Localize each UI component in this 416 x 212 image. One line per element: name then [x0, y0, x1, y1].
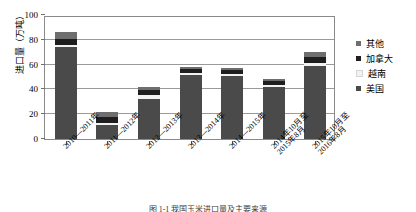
bar-segment-vn — [221, 74, 243, 76]
bar-segment-ot — [55, 32, 77, 38]
legend-swatch-icon — [356, 70, 363, 77]
y-axis-tick-mark — [41, 88, 45, 89]
y-axis-tick: 40 — [2, 85, 38, 94]
legend-swatch-icon — [356, 86, 361, 91]
gridline — [45, 64, 334, 65]
y-axis-tick-mark — [41, 64, 45, 65]
legend-swatch-icon — [356, 41, 361, 46]
bar-stack[interactable] — [221, 68, 243, 139]
bar-segment-vn — [96, 123, 118, 125]
bar-segment-vn — [180, 73, 202, 75]
bar-segment-vn — [55, 45, 77, 47]
legend-item[interactable]: 越南 — [356, 66, 414, 81]
y-axis-tick: 100 — [2, 11, 38, 20]
bar-segment-us — [180, 75, 202, 139]
bar-segment-ot — [180, 67, 202, 69]
bar-segment-us — [221, 76, 243, 139]
figure-caption: 图 1-1 我国玉米进口量及主要来源 — [0, 203, 416, 212]
legend-label: 加拿大 — [366, 52, 393, 65]
bar-segment-vn — [138, 95, 160, 99]
bar-stack[interactable] — [263, 79, 285, 139]
bar-segment-vn — [263, 85, 285, 87]
bar-segment-ot — [138, 87, 160, 90]
y-axis-tick: 0 — [2, 135, 38, 144]
legend-swatch-icon — [356, 56, 361, 61]
bar-segment-ot — [221, 68, 243, 70]
legend-item[interactable]: 美国 — [356, 81, 414, 96]
bar-segment-ca — [180, 69, 202, 73]
bar-segment-ca — [55, 39, 77, 46]
chart-figure: 进口量（万吨） 020406080100 2010—2011年2011—2012… — [0, 0, 416, 212]
bar-segment-ot — [263, 79, 285, 81]
y-axis-tick: 80 — [2, 36, 38, 45]
bar-segment-us — [55, 47, 77, 139]
y-axis-tick: 20 — [2, 110, 38, 119]
bar-stack[interactable] — [180, 67, 202, 139]
y-axis-tick: 60 — [2, 61, 38, 70]
bar-segment-ca — [221, 70, 243, 74]
bar-segment-ca — [263, 81, 285, 85]
y-axis-tick-mark — [41, 138, 45, 139]
chart-legend: 其他加拿大越南美国 — [356, 36, 414, 96]
y-axis-tick-mark — [41, 14, 45, 15]
bar-segment-ca — [304, 57, 326, 63]
legend-label: 越南 — [368, 67, 386, 80]
y-axis-tick-mark — [41, 113, 45, 114]
bar-stack[interactable] — [55, 32, 77, 139]
gridline — [45, 39, 334, 40]
y-axis-tick-mark — [41, 39, 45, 40]
legend-label: 其他 — [366, 37, 384, 50]
legend-item[interactable]: 加拿大 — [356, 51, 414, 66]
bar-segment-vn — [304, 63, 326, 65]
bar-segment-ca — [138, 90, 160, 95]
legend-label: 美国 — [366, 82, 384, 95]
bar-segment-ot — [304, 52, 326, 57]
legend-item[interactable]: 其他 — [356, 36, 414, 51]
